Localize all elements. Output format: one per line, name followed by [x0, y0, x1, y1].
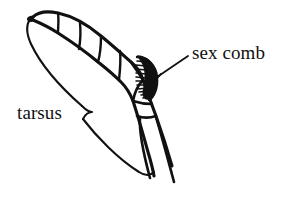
joint-seg3-seg2	[98, 36, 101, 62]
sex-comb	[136, 56, 157, 100]
joint-seg4-seg3	[79, 23, 80, 49]
tarsal-claws	[140, 117, 174, 182]
leg-inner-margin	[33, 20, 154, 176]
joint-seg2-seg1	[119, 51, 120, 80]
label-sex-comb: sex comb	[192, 43, 265, 62]
tarsus-distal-cap	[29, 17, 33, 20]
claw-right	[156, 117, 174, 182]
figure-root: sex comb tarsus	[0, 0, 294, 209]
joint-seg1-tibia	[133, 80, 143, 101]
label-tarsus: tarsus	[17, 103, 62, 122]
